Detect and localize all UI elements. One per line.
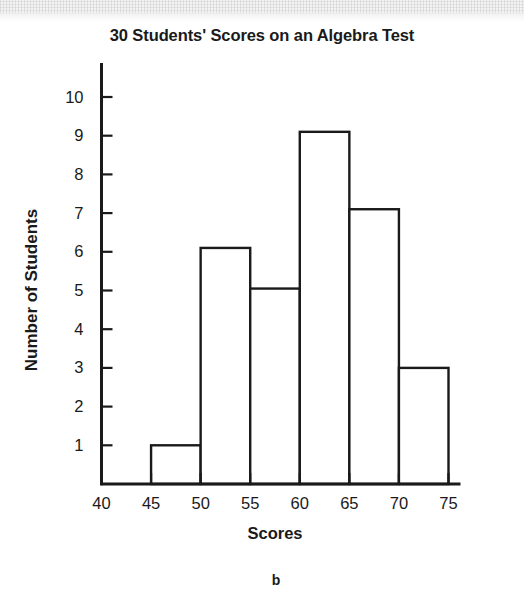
y-axis-title: Number of Students [22, 190, 42, 390]
x-tick-label: 50 [179, 495, 223, 512]
x-tick-label: 45 [129, 495, 173, 512]
y-tick-label: 10 [44, 89, 84, 106]
y-tick-label: 9 [44, 127, 84, 144]
histogram-bar [399, 368, 449, 484]
histogram-bar [349, 209, 399, 484]
histogram-plot [0, 0, 524, 560]
histogram-svg [0, 0, 524, 560]
histogram-bar [300, 132, 350, 484]
histogram-bar [151, 445, 201, 484]
histogram-bar [250, 289, 300, 484]
y-tick-label: 6 [44, 243, 84, 260]
y-tick-label: 3 [44, 359, 84, 376]
x-tick-label: 70 [377, 495, 421, 512]
figure-label: b [0, 572, 524, 588]
y-tick-label: 8 [44, 166, 84, 183]
y-tick-label: 4 [44, 321, 84, 338]
y-tick-label: 5 [44, 282, 84, 299]
y-tick-label: 2 [44, 398, 84, 415]
x-tick-label: 40 [80, 495, 124, 512]
x-tick-label: 60 [278, 495, 322, 512]
x-axis-title: Scores [101, 524, 449, 543]
histogram-bar [201, 248, 251, 484]
bars-group [151, 132, 448, 484]
y-tick-label: 1 [44, 437, 84, 454]
x-tick-label: 75 [427, 495, 471, 512]
y-tick-label: 7 [44, 205, 84, 222]
x-tick-label: 55 [228, 495, 272, 512]
x-tick-label: 65 [327, 495, 371, 512]
